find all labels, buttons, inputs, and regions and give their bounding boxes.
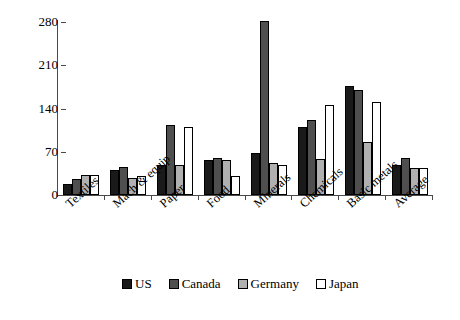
legend-item-japan: Japan xyxy=(316,277,359,291)
bar-group xyxy=(251,22,287,195)
legend-item-us: US xyxy=(122,277,152,291)
bar-group xyxy=(204,22,240,195)
legend-label: Japan xyxy=(329,277,359,291)
bar-us xyxy=(345,86,354,195)
x-axis-tick-mark xyxy=(291,195,292,200)
bar-group xyxy=(63,22,99,195)
chart-legend: USCanadaGermanyJapan xyxy=(122,277,359,291)
bar-canada xyxy=(354,90,363,195)
y-axis-tick: 0 xyxy=(0,195,66,196)
x-axis-tick-mark xyxy=(151,195,152,200)
bar-us xyxy=(298,127,307,195)
plot-area xyxy=(57,22,432,195)
y-axis-tick-label: 280 xyxy=(39,14,59,29)
bar-group xyxy=(345,22,381,195)
y-axis-tick-label: 210 xyxy=(39,57,59,72)
x-axis-tick-mark xyxy=(198,195,199,200)
x-axis-tick-mark xyxy=(385,195,386,200)
bar-us xyxy=(204,160,213,195)
legend-label: Germany xyxy=(251,277,299,291)
bar-japan xyxy=(184,127,193,195)
legend-label: US xyxy=(135,277,152,291)
y-axis-tick-label: 140 xyxy=(39,101,59,116)
bar-us xyxy=(251,153,260,195)
legend-label: Canada xyxy=(182,277,221,291)
legend-item-germany: Germany xyxy=(238,277,299,291)
bar-group xyxy=(110,22,146,195)
legend-swatch-icon xyxy=(316,279,326,289)
x-axis-tick-mark xyxy=(338,195,339,200)
legend-swatch-icon xyxy=(238,279,248,289)
x-axis-tick-mark xyxy=(432,195,433,200)
x-axis-tick-mark xyxy=(245,195,246,200)
bar-group xyxy=(298,22,334,195)
legend-swatch-icon xyxy=(122,279,132,289)
legend-swatch-icon xyxy=(169,279,179,289)
bar-canada xyxy=(260,21,269,195)
bar-chart-figure: 070140210280 TextilesMach & equipPaperFo… xyxy=(0,0,460,320)
x-axis-tick-mark xyxy=(104,195,105,200)
legend-item-canada: Canada xyxy=(169,277,221,291)
